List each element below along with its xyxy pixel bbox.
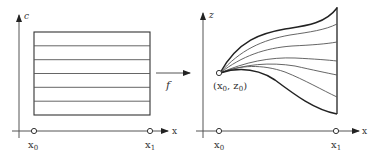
curve-4 bbox=[220, 58, 337, 73]
z-axis-label: z bbox=[208, 10, 214, 20]
x1-label-right: x1 bbox=[331, 139, 341, 152]
x0-label-right: x0 bbox=[214, 139, 224, 152]
lower-boundary-curve bbox=[220, 70, 337, 114]
x1-point-left bbox=[147, 128, 152, 133]
start-point bbox=[216, 70, 221, 75]
curve-3 bbox=[220, 42, 337, 73]
x1-point-right bbox=[333, 128, 338, 133]
start-point-label: (x0, z0) bbox=[213, 80, 247, 93]
solution-curves bbox=[220, 8, 337, 114]
upper-boundary-curve bbox=[220, 8, 337, 73]
x0-point-right bbox=[216, 128, 221, 133]
curve-2 bbox=[220, 24, 337, 73]
diagram-canvas: c x x0 x1 f z x x0 x1 bbox=[0, 0, 378, 157]
left-panel: c x x0 x1 bbox=[12, 11, 177, 152]
band-lines bbox=[34, 46, 150, 101]
x0-point-left bbox=[31, 128, 36, 133]
mapping-label: f bbox=[165, 79, 172, 92]
x-axis-label-right: x bbox=[362, 126, 367, 136]
x-axis-label-left: x bbox=[172, 126, 177, 136]
right-panel: z x x0 x1 (x0, z0) bbox=[196, 7, 367, 152]
x0-label-left: x0 bbox=[28, 139, 38, 152]
x1-label-left: x1 bbox=[145, 139, 155, 152]
mapping-f: f bbox=[156, 73, 190, 92]
c-axis-label: c bbox=[24, 11, 29, 21]
